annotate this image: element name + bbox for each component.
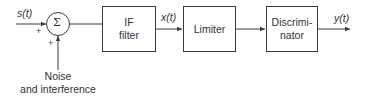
input-signal-label: s(t) [17,7,32,19]
limiter-label: Limiter [194,23,226,36]
noise-caption: Noise and interference [8,70,108,96]
intermediate-signal-label: x(t) [161,11,176,23]
discriminator-label-line1: Discrimi- [272,16,313,29]
if-filter-block: IF filter [102,6,156,52]
output-signal-label: y(t) [334,12,349,24]
plus-sign-left: + [36,26,41,36]
if-filter-label-line1: IF [119,16,139,29]
noise-caption-line1: Noise [8,70,108,83]
limiter-block: Limiter [183,6,236,52]
discriminator-label-line2: nator [272,29,313,42]
if-filter-label-line2: filter [119,29,139,42]
sigma-icon: Σ [53,16,61,29]
plus-sign-bottom: + [48,38,53,48]
noise-caption-line2: and interference [8,83,108,96]
discriminator-block: Discrimi- nator [266,6,318,52]
